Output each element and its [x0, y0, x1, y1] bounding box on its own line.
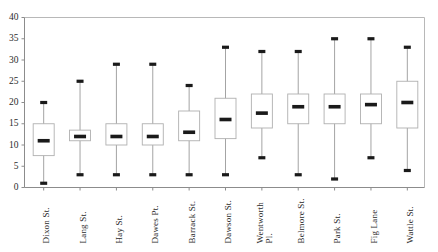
x-tick-label: Fig Lane — [369, 210, 379, 244]
upper-whisker-cap — [113, 63, 120, 66]
x-tick-label: Lang St. — [78, 211, 88, 243]
lower-whisker-cap — [113, 173, 120, 176]
x-tick-label: Dawson St. — [223, 200, 233, 244]
lower-whisker-cap — [367, 156, 374, 159]
median-marker — [329, 105, 341, 109]
x-tick-label: Belmore St. — [296, 198, 306, 243]
box-rect — [179, 111, 200, 141]
upper-whisker-cap — [295, 50, 302, 53]
y-tick-label: 10 — [9, 140, 19, 150]
median-marker — [183, 130, 195, 134]
box-rect — [324, 94, 345, 124]
x-tick-label: Dawes Pt. — [150, 205, 160, 243]
box-plot-group — [288, 50, 309, 176]
box-rect — [106, 124, 127, 145]
median-marker — [147, 135, 159, 139]
x-tick-label: Barrack St. — [187, 201, 197, 244]
lower-whisker-cap — [258, 156, 265, 159]
median-marker — [110, 135, 122, 139]
box-plot-group — [397, 46, 418, 172]
lower-whisker-cap — [404, 169, 411, 172]
box-rect — [397, 81, 418, 128]
median-marker — [220, 118, 232, 122]
box-rect — [288, 94, 309, 124]
upper-whisker-cap — [404, 46, 411, 49]
y-tick-label: 15 — [9, 118, 19, 128]
upper-whisker-cap — [222, 46, 229, 49]
y-tick-label: 25 — [9, 76, 19, 86]
box-plot-chart: 0510152025303540Dixon St.Lang St.Hay St.… — [0, 0, 438, 252]
upper-whisker-cap — [40, 101, 47, 104]
upper-whisker-cap — [186, 84, 193, 87]
lower-whisker-cap — [40, 182, 47, 185]
plot-area: 0510152025303540Dixon St.Lang St.Hay St.… — [0, 0, 438, 252]
median-marker — [256, 111, 268, 115]
box-plot-group — [33, 101, 54, 185]
upper-whisker-cap — [331, 37, 338, 40]
x-tick-label: Park St. — [332, 213, 342, 243]
y-tick-label: 40 — [9, 12, 19, 22]
median-marker — [74, 135, 86, 139]
box-plot-group — [179, 84, 200, 176]
x-tick-label: Wattle St. — [405, 206, 415, 243]
median-marker — [38, 139, 50, 143]
y-tick-label: 0 — [14, 182, 19, 192]
y-tick-label: 35 — [9, 33, 19, 43]
box-rect — [251, 94, 272, 128]
box-plot-group — [324, 37, 345, 180]
box-plot-group — [106, 63, 127, 177]
box-rect — [360, 94, 381, 124]
box-plot-group — [215, 46, 236, 177]
upper-whisker-cap — [367, 37, 374, 40]
lower-whisker-cap — [149, 173, 156, 176]
box-plot-group — [142, 63, 163, 177]
y-tick-label: 30 — [9, 55, 19, 65]
x-tick-label: Hay St. — [114, 215, 124, 243]
x-tick-label: Dixon St. — [41, 207, 51, 243]
x-tick-label: Pl. — [264, 233, 274, 243]
upper-whisker-cap — [149, 63, 156, 66]
upper-whisker-cap — [77, 80, 84, 83]
lower-whisker-cap — [222, 173, 229, 176]
lower-whisker-cap — [77, 173, 84, 176]
lower-whisker-cap — [295, 173, 302, 176]
box-plot-group — [360, 37, 381, 159]
median-marker — [292, 105, 304, 109]
box-plot-group — [70, 80, 91, 177]
y-tick-label: 20 — [9, 97, 19, 107]
median-marker — [365, 103, 377, 107]
x-tick-label: Wentworth — [255, 202, 265, 244]
lower-whisker-cap — [186, 173, 193, 176]
median-marker — [401, 101, 413, 105]
box-plot-group — [251, 50, 272, 159]
upper-whisker-cap — [258, 50, 265, 53]
y-tick-label: 5 — [14, 161, 19, 171]
lower-whisker-cap — [331, 177, 338, 180]
box-rect — [142, 124, 163, 145]
